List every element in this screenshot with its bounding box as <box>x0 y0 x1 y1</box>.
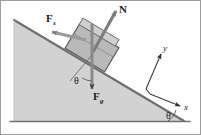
normal-force-label: N <box>119 3 127 15</box>
x-axis-label: x <box>183 102 188 112</box>
free-body-diagram-figure: N F s F g θ <box>0 0 201 135</box>
gravity-force-subscript: g <box>99 97 104 105</box>
block-angle-label: θ <box>74 75 79 86</box>
y-axis-label: y <box>162 43 167 53</box>
incline-angle-label: θ <box>166 110 171 121</box>
gravity-force-label: F <box>93 90 100 102</box>
applied-force-label: F <box>46 12 53 24</box>
diagram-canvas: N F s F g θ <box>0 0 201 135</box>
applied-force-subscript: s <box>52 19 56 27</box>
